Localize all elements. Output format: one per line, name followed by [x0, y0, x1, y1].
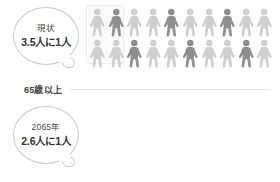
- person-figure-highlighted: [107, 7, 126, 37]
- person-icon: [218, 38, 237, 68]
- pictogram-grid-current: [88, 7, 274, 68]
- person-figure: [88, 38, 107, 68]
- person-icon: [255, 7, 274, 37]
- person-figure: [144, 7, 163, 37]
- person-icon: [237, 38, 256, 68]
- person-icon: [144, 38, 163, 68]
- person-icon: [237, 7, 256, 37]
- bubble-value-current: 3.5人に1人: [21, 36, 71, 48]
- bubble-label-future: 2065年: [32, 123, 61, 133]
- person-figure: [255, 38, 274, 68]
- person-figure-highlighted: [125, 38, 144, 68]
- person-icon: [125, 7, 144, 37]
- person-icon: [144, 7, 163, 37]
- person-icon: [107, 38, 126, 68]
- person-icon: [181, 38, 200, 68]
- bubble-value-future: 2.6人に1人: [21, 135, 71, 147]
- person-figure-highlighted: [162, 7, 181, 37]
- person-icon: [200, 38, 219, 68]
- person-figure: [107, 38, 126, 68]
- person-figure-highlighted: [237, 38, 256, 68]
- person-figure-highlighted: [218, 7, 237, 37]
- person-figure: [237, 7, 256, 37]
- person-figure: [255, 7, 274, 37]
- bubble-label-current: 現状: [37, 24, 55, 34]
- person-icon: [88, 38, 107, 68]
- section-divider-row: 65歳以上: [0, 82, 280, 96]
- person-figure: [200, 38, 219, 68]
- person-icon: [125, 38, 144, 68]
- panel-current-situation: 現状 3.5人に1人: [0, 0, 280, 78]
- person-figure-highlighted: [181, 38, 200, 68]
- infographic-canvas: 現状 3.5人に1人 65歳以上 2065年 2.6人に1人: [0, 0, 280, 182]
- person-figure: [125, 7, 144, 37]
- person-figure: [162, 38, 181, 68]
- person-figure: [88, 7, 107, 37]
- person-icon: [162, 38, 181, 68]
- divider-line: [70, 89, 270, 90]
- person-icon: [162, 7, 181, 37]
- person-icon: [255, 38, 274, 68]
- person-icon: [218, 7, 237, 37]
- person-icon: [88, 7, 107, 37]
- person-figure: [218, 38, 237, 68]
- person-figure: [181, 7, 200, 37]
- person-icon: [181, 7, 200, 37]
- panel-future-projection: 2065年 2.6人に1人: [0, 98, 280, 182]
- section-label-age-group: 65歳以上: [24, 83, 62, 96]
- person-figure: [144, 38, 163, 68]
- person-icon: [200, 7, 219, 37]
- person-figure: [200, 7, 219, 37]
- person-icon: [107, 7, 126, 37]
